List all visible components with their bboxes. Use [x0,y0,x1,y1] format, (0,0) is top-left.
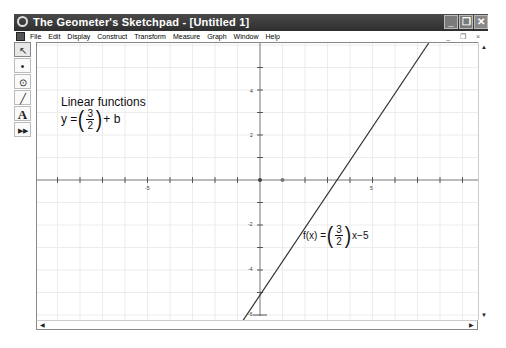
scroll-left-button[interactable]: ◀ [38,321,46,329]
menu-measure[interactable]: Measure [173,31,200,42]
menu-display[interactable]: Display [67,31,90,42]
mdi-controls[interactable]: _ ❐ × [446,31,484,42]
y-tick-label: -2 [248,221,252,227]
minimize-button[interactable]: _ [444,15,458,29]
left-paren: ( [327,223,333,247]
y-tick-label: -4 [248,266,252,272]
scroll-up-button[interactable]: ▲ [480,43,488,51]
numerator: 3 [88,108,94,119]
scroll-down-button[interactable]: ▼ [480,311,488,319]
menu-help[interactable]: Help [266,31,280,42]
custom-tool[interactable]: ▶▶ [14,122,31,137]
numerator: 3 [336,224,342,235]
coordinate-grid [37,43,478,321]
document-icon[interactable] [16,32,25,41]
caption-eq-lhs: y = [61,112,77,126]
title-bar: The Geometer's Sketchpad - [Untitled 1] … [14,14,488,31]
restore-button[interactable]: ❐ [459,15,473,29]
menu-construct[interactable]: Construct [97,31,127,42]
horizontal-scrollbar[interactable]: ◀ ▶ [36,320,478,330]
caption-equation[interactable]: y = ( 3 2 ) + b [61,107,120,131]
menu-bar: File Edit Display Construct Transform Me… [14,31,488,42]
app-icon [17,16,28,27]
function-label[interactable]: f(x) = ( 3 2 ) x−5 [303,223,368,247]
window-controls: _ ❐ ✕ [444,15,488,29]
denominator: 2 [88,120,94,131]
fraction: 3 2 [335,224,343,247]
vertical-scrollbar[interactable]: ▲ ▼ [478,42,489,320]
toolbox: ↖ • ⊙ ╱ A ▶▶ [14,42,33,142]
function-lhs: f(x) = [303,230,326,241]
left-paren: ( [78,107,84,131]
point-tool[interactable]: • [14,58,31,73]
x-tick-label: -5 [145,185,149,191]
menu-edit[interactable]: Edit [48,31,60,42]
text-tool[interactable]: A [14,106,31,121]
menu-window[interactable]: Window [234,31,259,42]
scroll-right-button[interactable]: ▶ [467,321,475,329]
straightedge-tool[interactable]: ╱ [14,90,31,105]
selection-arrow-tool[interactable]: ↖ [14,42,31,57]
right-paren: ) [96,107,102,131]
close-button[interactable]: ✕ [474,15,488,29]
menu-transform[interactable]: Transform [134,31,166,42]
caption-eq-rhs: + b [103,112,120,126]
sketch-canvas[interactable]: -5 5 4 2 -2 -4 -6 Linear functions y = (… [36,42,478,321]
compass-tool[interactable]: ⊙ [14,74,31,89]
denominator: 2 [336,236,342,247]
fraction: 3 2 [86,108,94,131]
x-tick-label: 5 [370,185,373,191]
menu-graph[interactable]: Graph [207,31,226,42]
right-paren: ) [345,223,351,247]
y-tick-label: 2 [250,132,253,138]
y-tick-label: -6 [248,311,252,317]
window-title: The Geometer's Sketchpad - [Untitled 1] [33,14,249,31]
y-tick-label: 4 [250,88,253,94]
menu-file[interactable]: File [30,31,41,42]
function-rhs: x−5 [352,230,368,241]
